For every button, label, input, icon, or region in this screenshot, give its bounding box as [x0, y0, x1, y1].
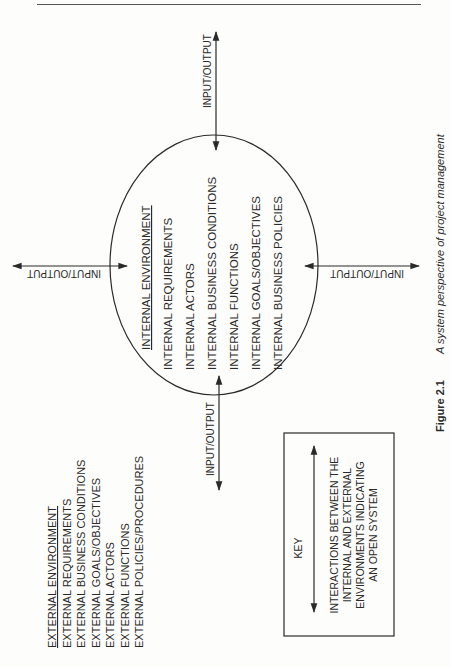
book-page: EXTERNAL ENVIRONMENT EXTERNAL REQUIREMEN…	[0, 0, 451, 667]
key-line: INTERACTIONS BETWEEN THE	[328, 457, 340, 614]
external-item: EXTERNAL REQUIREMENTS	[61, 499, 73, 648]
internal-item: INTERNAL BUSINESS CONDITIONS	[206, 176, 218, 370]
top-io-arrow: INPUT/OUTPUT	[202, 32, 216, 150]
internal-item: INTERNAL ACTORS	[184, 263, 196, 370]
external-item: EXTERNAL FUNCTIONS	[119, 523, 131, 648]
external-item: EXTERNAL BUSINESS CONDITIONS	[75, 460, 87, 648]
right-io-arrow: INPUT/OUTPUT	[305, 266, 419, 279]
internal-item: INTERNAL FUNCTIONS	[228, 243, 240, 370]
external-environment-title: EXTERNAL ENVIRONMENT	[46, 506, 58, 648]
figure-label: Figure 2.1	[434, 380, 446, 432]
figure-caption-text: A system perspective of project manageme…	[434, 133, 446, 355]
right-io-label: INPUT/OUTPUT	[330, 268, 404, 279]
figure-caption: Figure 2.1 A system perspective of proje…	[434, 133, 446, 432]
external-environment-list: EXTERNAL ENVIRONMENT EXTERNAL REQUIREMEN…	[46, 456, 145, 648]
key-line: ENVIRONMENTS INDICATING	[354, 461, 366, 608]
key-line: INTERNAL AND EXTERNAL	[341, 468, 353, 603]
system-perspective-diagram: EXTERNAL ENVIRONMENT EXTERNAL REQUIREMEN…	[0, 0, 451, 667]
internal-environment-title: INTERNAL ENVIRONMENT	[140, 205, 152, 350]
key-box: KEY INTERACTIONS BETWEEN THE INTERNAL AN…	[284, 433, 394, 636]
internal-item: INTERNAL GOALS/OBJECTIVES	[250, 196, 262, 370]
external-item: EXTERNAL ACTORS	[104, 542, 116, 648]
key-title: KEY	[292, 537, 304, 558]
left-io-label: INPUT/OUTPUT	[27, 268, 101, 279]
external-item: EXTERNAL GOALS/OBJECTIVES	[90, 478, 102, 648]
key-line: AN OPEN SYSTEM	[367, 488, 379, 581]
top-io-label: INPUT/OUTPUT	[202, 34, 213, 108]
internal-item: INTERNAL BUSINESS POLICIES	[272, 196, 284, 370]
internal-item: INTERNAL REQUIREMENTS	[162, 217, 174, 370]
bottom-io-arrow: INPUT/OUTPUT	[205, 376, 219, 490]
internal-environment-list: INTERNAL ENVIRONMENT INTERNAL REQUIREMEN…	[140, 176, 284, 370]
external-item: EXTERNAL POLICIES/PROCEDURES	[133, 456, 145, 648]
bottom-io-label: INPUT/OUTPUT	[205, 402, 216, 476]
